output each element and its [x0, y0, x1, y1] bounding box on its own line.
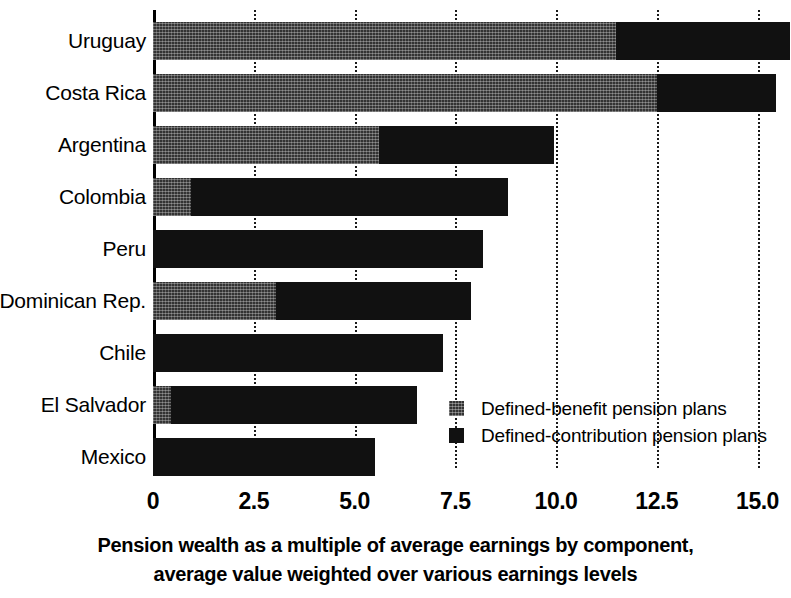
- bar-row: [153, 334, 443, 372]
- bar-segment-defined-contribution: [153, 438, 375, 476]
- category-label: Colombia: [59, 178, 146, 216]
- legend-swatch-defined-benefit-icon: [449, 401, 464, 416]
- bar-segment-defined-contribution: [153, 230, 483, 268]
- category-label: Peru: [102, 230, 146, 268]
- x-tick-label: 5.0: [339, 488, 369, 515]
- legend-label-defined-benefit: Defined-benefit pension plans: [481, 398, 727, 420]
- pension-wealth-bar-chart: UruguayCosta RicaArgentinaColombiaPeruDo…: [0, 0, 791, 598]
- category-label: Uruguay: [68, 22, 146, 60]
- bar-row: [153, 230, 483, 268]
- category-label: Mexico: [81, 438, 146, 476]
- bar-segment-defined-contribution: [276, 282, 471, 320]
- x-tick-label: 12.5: [635, 488, 678, 515]
- bar-row: [153, 178, 508, 216]
- bar-segment-defined-contribution: [153, 334, 443, 372]
- bar-row: [153, 74, 776, 112]
- legend-item-defined-benefit: Defined-benefit pension plans: [449, 395, 767, 422]
- bar-row: [153, 22, 790, 60]
- bar-row: [153, 438, 375, 476]
- bar-segment-defined-benefit: [153, 178, 191, 216]
- legend-label-defined-contribution: Defined-contribution pension plans: [481, 425, 767, 447]
- legend-item-defined-contribution: Defined-contribution pension plans: [449, 422, 767, 449]
- bar-segment-defined-contribution: [191, 178, 507, 216]
- chart-caption: Pension wealth as a multiple of average …: [0, 531, 791, 589]
- x-tick-label: 10.0: [535, 488, 578, 515]
- caption-line-1: Pension wealth as a multiple of average …: [0, 531, 791, 560]
- chart-legend: Defined-benefit pension plans Defined-co…: [449, 395, 767, 449]
- category-label: Chile: [99, 334, 146, 372]
- legend-swatch-defined-contribution-icon: [449, 428, 464, 443]
- bar-segment-defined-contribution: [616, 22, 789, 60]
- x-tick-label: 0: [147, 488, 159, 515]
- bar-segment-defined-benefit: [153, 22, 616, 60]
- bar-segment-defined-benefit: [153, 126, 379, 164]
- bar-row: [153, 126, 554, 164]
- category-label: Costa Rica: [45, 74, 146, 112]
- x-tick-label: 2.5: [239, 488, 269, 515]
- category-label: El Salvador: [41, 386, 146, 424]
- bar-segment-defined-contribution: [379, 126, 554, 164]
- x-tick-label: 15.0: [736, 488, 779, 515]
- bar-segment-defined-benefit: [153, 282, 276, 320]
- caption-line-2: average value weighted over various earn…: [0, 560, 791, 589]
- category-label: Dominican Rep.: [0, 282, 146, 320]
- bar-segment-defined-contribution: [171, 386, 417, 424]
- bar-segment-defined-contribution: [657, 74, 776, 112]
- bar-segment-defined-benefit: [153, 74, 657, 112]
- bar-row: [153, 386, 417, 424]
- bar-segment-defined-benefit: [153, 386, 171, 424]
- bar-row: [153, 282, 471, 320]
- category-label: Argentina: [58, 126, 146, 164]
- x-tick-label: 7.5: [440, 488, 470, 515]
